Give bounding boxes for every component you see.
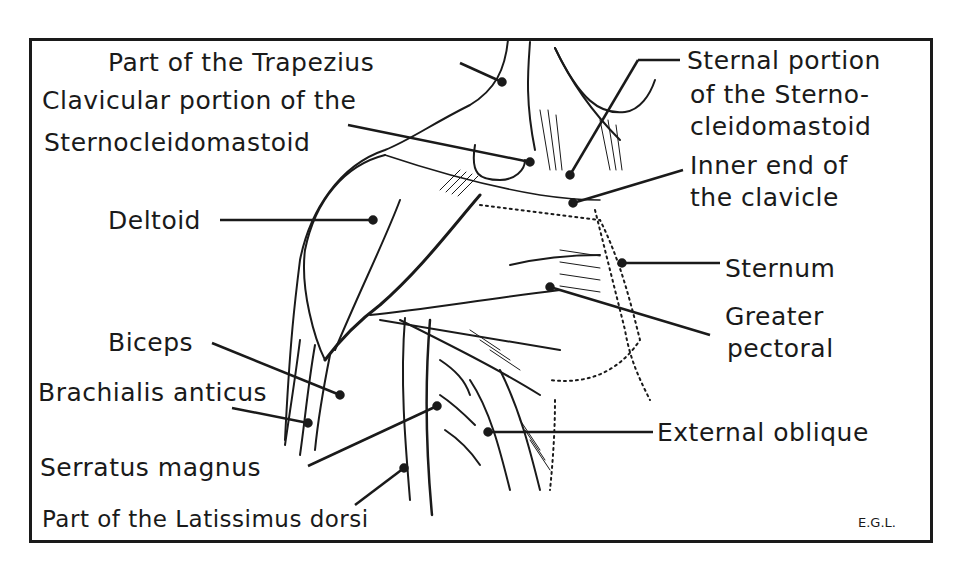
leader-inner-clavicle (573, 170, 683, 203)
label-latissimus: Part of the Latissimus dorsi (42, 504, 369, 534)
arm-line-3 (315, 355, 330, 450)
scm-clavicular (474, 145, 525, 180)
arm-line-2 (300, 345, 315, 455)
label-deltoid: Deltoid (108, 206, 201, 236)
leader-clavicular-scm (348, 125, 530, 162)
label-sternum: Sternum (725, 254, 835, 284)
label-sternal-scm-line2: of the Sterno- (690, 80, 870, 110)
label-sternal-scm-line1: Sternal portion (687, 46, 881, 76)
label-brachialis: Brachialis anticus (38, 378, 267, 408)
sternum-dotted (595, 210, 650, 400)
label-biceps: Biceps (108, 328, 193, 358)
leader-trapezius (460, 63, 502, 82)
pectoral-fibers-2 (370, 290, 560, 315)
oblique-dotted (550, 400, 555, 490)
label-serratus: Serratus magnus (40, 453, 261, 483)
neck-curve (555, 48, 655, 112)
leader-brachialis (232, 408, 308, 423)
neck-outline-left (528, 42, 535, 150)
serratus-1 (440, 360, 470, 395)
label-inner-clavicle-line1: Inner end of (690, 151, 848, 181)
label-greater-pectoral-line1: Greater (725, 302, 824, 332)
leader-serratus (308, 406, 437, 466)
artist-signature: E.G.L. (858, 515, 896, 530)
label-clavicular-scm-line2: Sternocleidomastoid (44, 128, 310, 158)
serratus-3 (445, 430, 480, 465)
label-clavicular-scm-line1: Clavicular portion of the (42, 86, 356, 116)
label-trapezius: Part of the Trapezius (108, 48, 374, 78)
label-greater-pectoral-line2: pectoral (727, 334, 834, 364)
leader-lines (212, 60, 720, 505)
pectoral-fibers-1 (510, 255, 600, 265)
neck-outline-right (555, 48, 620, 140)
label-external-oblique: External oblique (657, 418, 869, 448)
label-sternal-scm-line3: cleidomastoid (690, 112, 871, 142)
leader-greater-pectoral (550, 287, 710, 335)
label-inner-clavicle-line2: the clavicle (690, 183, 839, 213)
pectoral-fibers-4 (400, 320, 540, 395)
serratus-2 (440, 395, 475, 425)
deltoid-inner (335, 200, 400, 350)
leader-latissimus (355, 468, 404, 505)
lat-line-2 (426, 320, 432, 515)
